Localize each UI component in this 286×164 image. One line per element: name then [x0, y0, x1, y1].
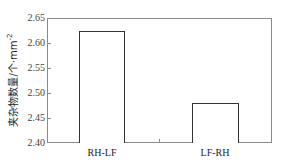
y-tick	[47, 43, 51, 44]
y-tick	[47, 118, 51, 119]
y-axis-label: 夹杂物数量/个·mm-2	[5, 33, 20, 126]
x-tick	[159, 139, 160, 142]
y-tick-label: 2.60	[28, 38, 46, 48]
y-tick-label: 2.65	[28, 13, 46, 23]
y-tick-label: 2.40	[28, 138, 46, 148]
bar-chart: 夹杂物数量/个·mm-2 2.40 2.45 2.50 2.55 2.60 2.…	[0, 0, 286, 164]
y-tick	[47, 68, 51, 69]
bar-lf-rh	[192, 103, 239, 143]
y-tick-label: 2.50	[28, 88, 46, 98]
x-tick-label: RH-LF	[72, 147, 132, 158]
y-tick-label: 2.55	[28, 63, 46, 73]
x-tick-label: LF-RH	[185, 147, 245, 158]
y-tick-label: 2.45	[28, 113, 46, 123]
y-tick	[47, 93, 51, 94]
bar-rh-lf	[79, 31, 125, 143]
